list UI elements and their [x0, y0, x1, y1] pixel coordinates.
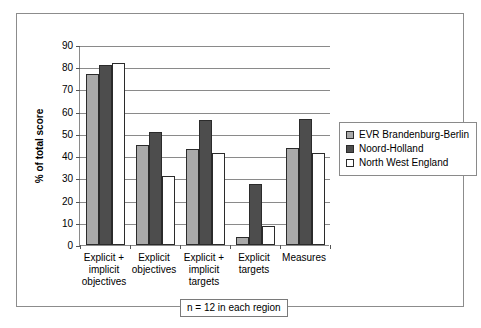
y-axis-tick-label: 0: [67, 241, 73, 251]
bar: [162, 176, 175, 245]
x-axis-category-label: Measures: [279, 252, 329, 264]
bar-chart-figure: % of total score 0102030405060708090 Exp…: [0, 0, 481, 328]
x-axis-tick: [230, 245, 231, 249]
legend-label: North West England: [359, 158, 448, 168]
plot-area: 0102030405060708090: [79, 46, 329, 246]
y-axis-tick-label: 60: [62, 108, 73, 118]
y-axis-tick: [76, 135, 80, 136]
x-axis-tick: [280, 245, 281, 249]
legend-swatch-icon: [346, 159, 354, 167]
y-axis-tick-label: 90: [62, 41, 73, 51]
x-axis-tick: [330, 245, 331, 249]
y-axis-tick: [76, 113, 80, 114]
legend-item: North West England: [346, 156, 469, 170]
bar: [136, 145, 149, 245]
y-axis-tick-label: 40: [62, 152, 73, 162]
legend-swatch-icon: [346, 131, 354, 139]
y-axis-title: % of total score: [34, 109, 45, 183]
y-axis-tick-label: 30: [62, 174, 73, 184]
x-axis-category-label: Explicit +implicitobjectives: [79, 252, 129, 288]
y-axis-tick: [76, 68, 80, 69]
bar: [199, 120, 212, 245]
y-axis-tick: [76, 202, 80, 203]
legend-swatch-icon: [346, 145, 354, 153]
x-axis-tick: [130, 245, 131, 249]
y-axis-tick-label: 10: [62, 219, 73, 229]
bar: [312, 153, 325, 245]
bar: [299, 119, 312, 245]
chart-legend: EVR Brandenburg-Berlin Noord-Holland Nor…: [339, 122, 477, 176]
x-axis-category-label: Explicit +implicittargets: [179, 252, 229, 288]
gridline: [80, 46, 330, 47]
legend-label: EVR Brandenburg-Berlin: [359, 130, 469, 140]
x-axis-category-label: Explicittargets: [229, 252, 279, 276]
bar: [249, 184, 262, 245]
legend-label: Noord-Holland: [359, 144, 423, 154]
y-axis-tick: [76, 90, 80, 91]
bar: [236, 237, 249, 245]
bar: [99, 65, 112, 245]
bar: [112, 63, 125, 245]
y-axis-tick-label: 50: [62, 130, 73, 140]
bar: [212, 153, 225, 245]
bar: [186, 149, 199, 245]
chart-footnote: n = 12 in each region: [180, 299, 288, 317]
x-axis-tick: [180, 245, 181, 249]
bar: [149, 132, 162, 245]
y-axis-tick: [76, 46, 80, 47]
y-axis-tick-label: 20: [62, 197, 73, 207]
x-axis-category-label: Explicitobjectives: [129, 252, 179, 276]
y-axis-tick-label: 80: [62, 63, 73, 73]
bar: [86, 74, 99, 245]
x-axis-tick: [80, 245, 81, 249]
y-axis-tick: [76, 157, 80, 158]
bar: [262, 226, 275, 245]
y-axis-tick: [76, 224, 80, 225]
chart-outer-frame: % of total score 0102030405060708090 Exp…: [16, 13, 464, 307]
legend-item: Noord-Holland: [346, 142, 469, 156]
bar: [286, 148, 299, 245]
y-axis-tick-label: 70: [62, 85, 73, 95]
y-axis-tick: [76, 179, 80, 180]
legend-item: EVR Brandenburg-Berlin: [346, 128, 469, 142]
